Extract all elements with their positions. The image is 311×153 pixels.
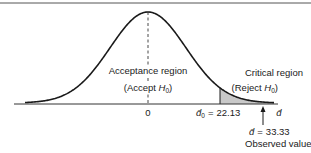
critical-value-label: d̄0=22.13 [196, 107, 240, 119]
acceptance-region-label: Acceptance region [109, 65, 188, 76]
normal-distribution-diagram: Acceptance region (Accept H0) Critical r… [0, 0, 311, 153]
reject-h0-label: (Reject H0) [232, 82, 278, 94]
observed-arrow-head-icon [261, 106, 266, 112]
center-tick-label: 0 [145, 107, 150, 118]
accept-h0-label: (Accept H0) [124, 82, 173, 94]
axis-variable-label: d̄ [276, 107, 282, 118]
observed-value-caption: Observed value [245, 138, 311, 149]
observed-value-label: d̄=33.33 [249, 126, 290, 137]
critical-region-label: Critical region [245, 67, 303, 78]
